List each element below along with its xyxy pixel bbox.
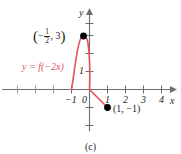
- x-tick-label-2: 2: [123, 95, 128, 105]
- function-equation-label: y = f(−2x): [22, 62, 64, 72]
- graph-canvas: [0, 0, 181, 154]
- vertex-label-minus: −: [38, 30, 44, 41]
- x-tick-label-neg1: −1: [65, 95, 77, 105]
- x-tick-label-0: 0: [82, 95, 87, 105]
- x-axis-arrow: [170, 86, 177, 93]
- x-axis-label: x: [170, 96, 174, 106]
- vertex-label-close-paren: ): [60, 28, 65, 44]
- x-tick-label-1: 1: [105, 95, 110, 105]
- figure-caption: (c): [0, 141, 181, 152]
- endpoint-coordinate-label: (1, −1): [113, 104, 140, 114]
- y-tick-label-1: 1: [79, 66, 84, 76]
- x-tick-label-3: 3: [141, 95, 146, 105]
- x-tick-label-4: 4: [159, 95, 164, 105]
- vertex-point-label: (−12, 3): [33, 28, 65, 45]
- endpoint-marker: [104, 104, 111, 111]
- figure-panel: (−12, 3) y = f(−2x) (1, −1) y x 1 −1 0 1…: [0, 0, 181, 154]
- vertex-point-marker: [80, 33, 87, 40]
- y-axis-arrow: [86, 8, 93, 15]
- y-axis-label: y: [79, 8, 83, 18]
